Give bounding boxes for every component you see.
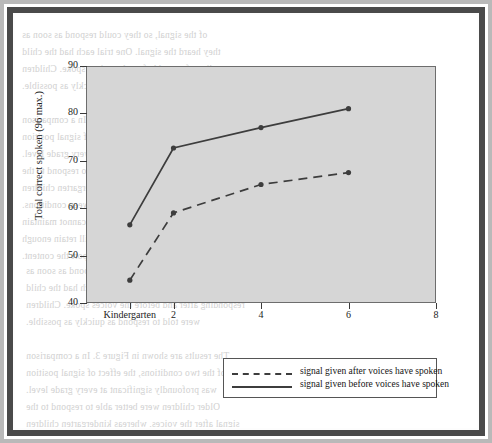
series-line-dashed — [130, 173, 349, 281]
legend-label-dashed: signal given after voices have spoken — [300, 366, 442, 376]
legend-swatch-dashed-icon — [232, 373, 292, 375]
data-point-marker — [258, 125, 263, 130]
series-line-solid — [130, 109, 349, 225]
data-point-marker — [127, 222, 132, 227]
data-point-marker — [127, 278, 132, 283]
data-point-marker — [258, 182, 263, 187]
data-point-marker — [346, 106, 351, 111]
legend-box: signal given after voices have spoken si… — [223, 358, 437, 398]
figure-line-chart: Total correct spoken (96 max.) 908070605… — [0, 0, 492, 443]
legend-swatch-solid-icon — [232, 386, 292, 388]
data-point-marker — [346, 170, 351, 175]
data-point-marker — [171, 145, 176, 150]
legend-label-solid: signal given before voices have spoken — [300, 379, 449, 389]
data-point-marker — [171, 210, 176, 215]
legend-entry-solid: signal given before voices have spoken — [232, 380, 432, 394]
